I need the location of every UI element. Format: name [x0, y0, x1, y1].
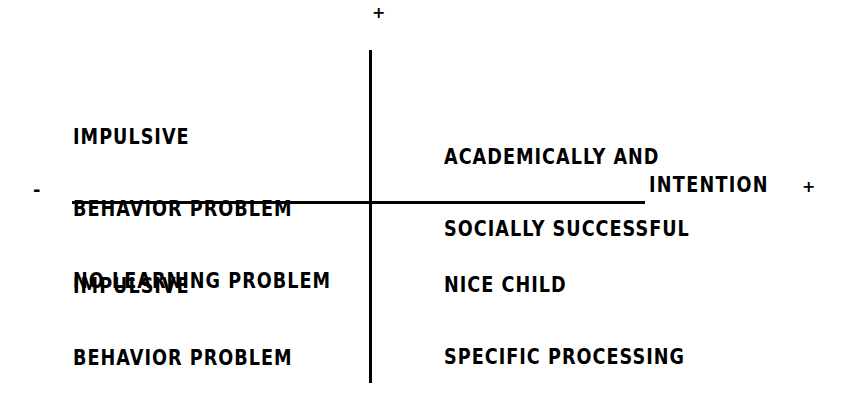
vertical-axis-line [369, 50, 372, 383]
quadrant-text-line: ACADEMICALLY AND [444, 145, 690, 169]
vertical-axis-positive-marker: + [372, 5, 385, 21]
quadrant-bottom-left: IMPULSIVE BEHAVIOR PROBLEM GENERALIZED L… [73, 226, 338, 401]
quadrant-text-line: BEHAVIOR PROBLEM [73, 197, 331, 221]
quadrant-text-line: IMPULSIVE [73, 274, 338, 298]
quadrant-text-line: NICE CHILD [444, 273, 694, 297]
horizontal-axis-negative-marker: - [33, 181, 40, 199]
quadrant-bottom-right: NICE CHILD SPECIFIC PROCESSING HANDICAP … [444, 225, 694, 401]
quadrant-text-line: SPECIFIC PROCESSING [444, 345, 694, 369]
horizontal-axis-positive-marker: + [802, 179, 815, 195]
quadrant-text-line: BEHAVIOR PROBLEM [73, 346, 338, 370]
quadrant-text-line: IMPULSIVE [73, 125, 331, 149]
